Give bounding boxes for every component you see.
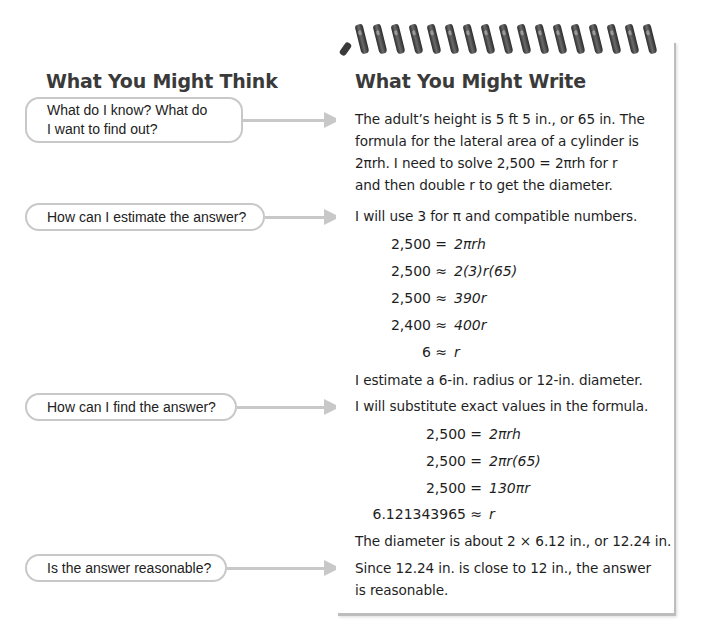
eq-lhs: 2,400 <box>355 314 431 336</box>
question-text: How can I estimate the answer? <box>47 208 246 227</box>
step4-text: Since 12.24 in. is close to 12 in., the … <box>355 557 675 601</box>
eq-op: ≈ <box>432 287 450 309</box>
text-line: formula for the lateral area of a cylind… <box>355 130 675 152</box>
coil-icon <box>372 23 387 54</box>
eq-op: = <box>467 423 485 445</box>
step1-text: The adult’s height is 5 ft 5 in., or 65 … <box>355 108 675 196</box>
coil-icon <box>390 23 405 54</box>
question-text: What do I know? What do <box>47 101 207 120</box>
eq-rhs: r <box>489 503 495 525</box>
eq-op: = <box>432 233 450 255</box>
eq-op: ≈ <box>432 314 450 336</box>
spiral-binding-icon <box>338 20 678 60</box>
text-line: 2πrh. I need to solve 2,500 = 2πrh for r <box>355 152 675 174</box>
question-box-find: How can I find the answer? <box>25 393 237 421</box>
eq-rhs: 2πrh <box>454 233 486 255</box>
coil-icon <box>408 23 423 54</box>
eq-rhs: r <box>454 341 460 363</box>
eq-rhs: 2(3)r(65) <box>454 260 517 282</box>
eq-lhs: 2,500 <box>355 233 431 255</box>
eq-op: = <box>467 450 485 472</box>
coil-end-icon <box>339 41 353 56</box>
coil-icon <box>480 23 495 54</box>
eq-lhs: 6 <box>355 341 431 363</box>
coil-icon <box>624 23 639 54</box>
coil-icon <box>552 23 567 54</box>
eq-lhs: 6.121343965 <box>355 503 466 525</box>
eq-op: ≈ <box>432 260 450 282</box>
question-box-estimate: How can I estimate the answer? <box>25 203 265 231</box>
step3-conclusion: The diameter is about 2 × 6.12 in., or 1… <box>355 530 671 552</box>
coil-icon <box>498 23 513 54</box>
eq-rhs: 2πrh <box>489 423 521 445</box>
question-text: Is the answer reasonable? <box>47 559 211 578</box>
coil-icon <box>606 23 621 54</box>
eq-op: = <box>467 477 485 499</box>
arrow-icon <box>243 119 338 122</box>
coil-icon <box>642 23 657 54</box>
think-heading: What You Might Think <box>46 70 278 92</box>
arrow-icon <box>237 406 338 409</box>
eq-op: ≈ <box>467 503 485 525</box>
eq-lhs: 2,500 <box>355 260 431 282</box>
eq-rhs: 2πr(65) <box>489 450 541 472</box>
arrow-icon <box>265 216 338 219</box>
question-box-know: What do I know? What do I want to find o… <box>25 97 243 143</box>
coil-icon <box>516 23 531 54</box>
step2-conclusion: I estimate a 6-in. radius or 12-in. diam… <box>355 369 643 391</box>
coil-icon <box>462 23 477 54</box>
eq-op: ≈ <box>432 341 450 363</box>
coil-icon <box>426 23 441 54</box>
eq-rhs: 400r <box>454 314 486 336</box>
eq-rhs: 130πr <box>489 477 530 499</box>
text-line: is reasonable. <box>355 579 675 601</box>
question-text: I want to find out? <box>47 120 207 139</box>
question-box-reasonable: Is the answer reasonable? <box>25 554 227 582</box>
step3-intro: I will substitute exact values in the fo… <box>355 395 648 417</box>
arrow-icon <box>227 567 338 570</box>
coil-icon <box>570 23 585 54</box>
coil-icon <box>534 23 549 54</box>
text-line: Since 12.24 in. is close to 12 in., the … <box>355 557 675 579</box>
coil-icon <box>354 23 369 54</box>
coil-icon <box>444 23 459 54</box>
question-text: How can I find the answer? <box>47 398 216 417</box>
eq-lhs: 2,500 <box>355 423 466 445</box>
eq-lhs: 2,500 <box>355 287 431 309</box>
eq-lhs: 2,500 <box>355 477 466 499</box>
coil-icon <box>588 23 603 54</box>
eq-rhs: 390r <box>454 287 486 309</box>
text-line: The adult’s height is 5 ft 5 in., or 65 … <box>355 108 675 130</box>
text-line: and then double r to get the diameter. <box>355 174 675 196</box>
step2-intro: I will use 3 for π and compatible number… <box>355 205 637 227</box>
write-heading: What You Might Write <box>355 70 586 92</box>
eq-lhs: 2,500 <box>355 450 466 472</box>
